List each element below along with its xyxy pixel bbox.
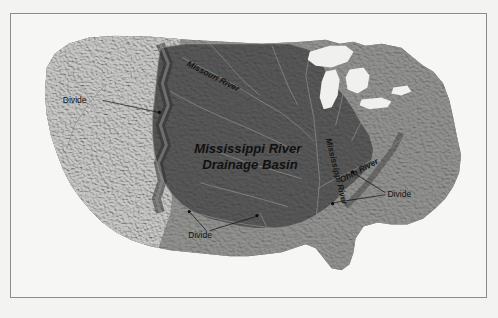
label-divide-west: Divide: [63, 95, 87, 105]
label-basin-line-2: Drainage Basin: [202, 157, 298, 172]
divide-west-pointer-dot: [158, 111, 161, 114]
map-plate: Missouri River Mississippi River Ohio Ri…: [10, 13, 487, 298]
label-divide-east: Divide: [387, 189, 411, 199]
label-divide-south: Divide: [188, 230, 212, 240]
relief-map-svg: Missouri River Mississippi River Ohio Ri…: [11, 14, 486, 297]
divide-south-pointer-dot-1: [188, 210, 191, 213]
divide-east-pointer-dot-1: [351, 170, 354, 173]
map-plate-inner: Missouri River Mississippi River Ohio Ri…: [11, 14, 486, 297]
label-basin-line-1: Mississippi River: [194, 141, 302, 156]
figure-canvas: nagwa.com: [0, 0, 498, 318]
divide-south-pointer-dot-2: [255, 214, 258, 217]
divide-east-pointer-dot-2: [331, 202, 334, 205]
